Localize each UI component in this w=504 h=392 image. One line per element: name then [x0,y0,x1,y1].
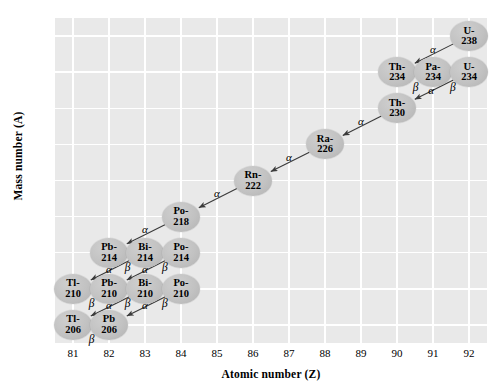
nuclide-mass: 238 [461,36,477,47]
x-tick-label: 81 [53,347,93,359]
nuclide-mass: 214 [173,253,189,264]
x-tick-label: 87 [269,347,309,359]
decay-label-alpha: α [106,263,112,275]
nuclide-mass: 234 [425,72,441,83]
decay-chain-chart: Mass number (A) Atomic number (Z) U-238T… [0,0,504,392]
nuclide-node-th-234[interactable]: Th-234 [378,57,416,87]
nuclide-node-pa-234[interactable]: Pa-234 [414,57,452,87]
nuclide-symbol: Rn- [245,170,262,181]
nuclide-mass: 218 [173,217,189,228]
nuclide-mass: 206 [101,325,117,336]
plot-area: U-238Th-234Pa-234U-234Th-230Ra-226Rn-222… [55,18,487,343]
decay-label-alpha: α [428,84,434,96]
decay-label-beta: β [89,333,95,345]
x-tick-label: 90 [377,347,417,359]
nuclide-mass: 210 [101,289,117,300]
decay-label-beta: β [413,81,419,93]
nuclide-mass: 234 [461,72,477,83]
x-tick-label: 89 [341,347,381,359]
decay-label-alpha: α [142,223,148,235]
nuclide-mass: 230 [389,108,405,119]
nuclide-mass: 206 [65,325,81,336]
decay-label-alpha: α [214,187,220,199]
decay-label-alpha: α [142,263,148,275]
decay-label-alpha: α [286,151,292,163]
y-axis-title: Mass number (A) [12,76,24,236]
decay-label-alpha: α [142,299,148,311]
nuclide-node-pb-206[interactable]: Pb206 [90,310,128,340]
x-tick-label: 82 [89,347,129,359]
nuclide-node-tl-210[interactable]: Tl-210 [54,274,92,304]
nuclide-mass: 226 [317,144,333,155]
x-tick-label: 85 [197,347,237,359]
nuclide-mass: 210 [173,289,189,300]
nuclide-node-po-218[interactable]: Po-218 [162,202,200,232]
nuclide-mass: 210 [137,289,153,300]
nuclide-mass: 234 [389,72,405,83]
x-tick-label: 91 [413,347,453,359]
nuclide-mass: 214 [137,253,153,264]
nuclide-node-tl-206[interactable]: Tl-206 [54,310,92,340]
x-tick-label: 88 [305,347,345,359]
decay-label-beta: β [162,297,168,309]
decay-label-alpha: α [358,115,364,127]
decay-label-beta: β [125,297,131,309]
x-tick-label: 83 [125,347,165,359]
nuclide-node-rn-222[interactable]: Rn-222 [234,166,272,196]
decay-label-alpha: α [430,43,436,55]
nuclide-mass: 222 [245,181,261,192]
decay-label-beta: β [89,297,95,309]
x-tick-label: 86 [233,347,273,359]
nuclide-node-u-238[interactable]: U-238 [450,21,488,51]
nuclide-mass: 214 [101,253,117,264]
decay-label-beta: β [125,261,131,273]
decay-label-alpha: α [106,299,112,311]
decay-label-beta: β [162,261,168,273]
x-tick-label: 92 [449,347,489,359]
x-tick-label: 84 [161,347,201,359]
x-axis-title: Atomic number (Z) [55,368,487,380]
decay-label-beta: β [450,81,456,93]
nuclide-mass: 210 [65,289,81,300]
